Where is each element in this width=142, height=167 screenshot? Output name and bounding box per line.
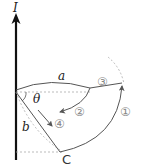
point-c-label: C bbox=[62, 152, 71, 167]
distance-b-label: b bbox=[22, 120, 30, 134]
path-4-label: ④ bbox=[54, 117, 65, 131]
path-4-arrow-icon bbox=[38, 110, 52, 126]
diagram: I a ③ ① ② θ ④ b C bbox=[0, 0, 142, 167]
arc-a bbox=[16, 82, 90, 90]
path-2-label: ② bbox=[74, 105, 85, 119]
distance-a-label: a bbox=[58, 69, 65, 83]
path-1-label: ① bbox=[120, 105, 131, 119]
wire bbox=[12, 13, 21, 160]
path-3-label: ③ bbox=[97, 75, 108, 89]
current-label: I bbox=[12, 1, 18, 15]
angle-label: θ bbox=[33, 92, 41, 106]
angle-arc bbox=[22, 92, 26, 101]
path-1 bbox=[60, 86, 122, 152]
